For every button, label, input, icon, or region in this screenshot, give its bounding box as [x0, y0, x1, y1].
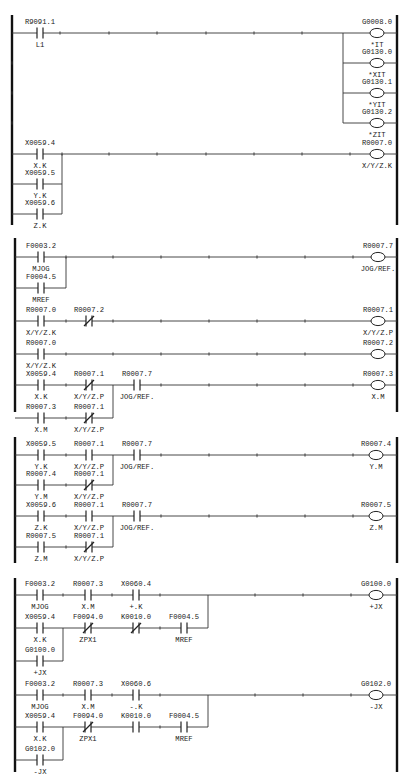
no-contact[interactable]: K0010.0	[121, 712, 151, 733]
contact-address: F0003.2	[25, 680, 55, 688]
contact-label: X/Y/Z.P	[74, 524, 104, 532]
contact-label: X.M	[35, 426, 48, 434]
no-contact[interactable]: R0007.0X/Y/Z.K	[26, 339, 57, 370]
nc-contact[interactable]: R0007.1X/Y/Z.P	[74, 532, 104, 563]
output-coil[interactable]: R0007.4Y.M	[361, 440, 391, 471]
no-contact[interactable]: X0059.4X.K	[25, 613, 55, 644]
nc-contact[interactable]: F0094.0ZPX1	[73, 712, 103, 743]
nc-contact[interactable]: R0007.1X/Y/Z.P	[74, 470, 104, 501]
no-contact[interactable]: G0102.0-JX	[25, 745, 55, 776]
coil-icon	[370, 58, 384, 67]
no-contact[interactable]: F0003.2MJOG	[25, 680, 55, 711]
no-contact[interactable]: R0007.1X/Y/Z.P	[74, 501, 104, 532]
no-contact[interactable]: F0004.5MREF	[169, 712, 199, 743]
no-contact[interactable]: R0007.3X.M	[73, 580, 103, 611]
contact-gap	[86, 454, 92, 457]
no-contact[interactable]: X0060.4+.K	[121, 580, 151, 611]
no-contact[interactable]: R0007.3X.M	[73, 680, 103, 711]
contact-address: X0059.5	[25, 169, 55, 177]
contact-label: -JX	[34, 768, 48, 776]
contact-gap	[181, 627, 187, 630]
contact-label: MREF	[175, 735, 192, 743]
nc-contact[interactable]: R0007.1X/Y/Z.P	[74, 370, 104, 401]
contact-address: X0059.5	[26, 440, 56, 448]
no-contact[interactable]: R0007.3X.M	[26, 403, 56, 434]
no-contact[interactable]: R0007.7JOG/REF.	[120, 440, 155, 471]
output-coil[interactable]: R0007.2	[363, 339, 393, 359]
output-coil[interactable]: R0007.5Z.M	[361, 501, 391, 532]
no-contact[interactable]: R0007.0X/Y/Z.K	[26, 306, 57, 337]
contact-label: X/Y/Z.P	[74, 555, 104, 563]
output-coil[interactable]: G0102.0-JX	[361, 680, 391, 711]
contact-address: R0007.5	[26, 532, 56, 540]
no-contact[interactable]: X0059.6Z.K	[26, 501, 56, 532]
contact-gap	[37, 627, 43, 630]
output-coil[interactable]: R0007.1X/Y/Z.P	[363, 306, 393, 337]
coil-label: X/Y/Z.K	[362, 162, 393, 170]
contact-label: X.K	[35, 393, 49, 401]
coil-label: Y.M	[370, 463, 383, 471]
nc-contact[interactable]: K0010.0	[121, 613, 151, 634]
no-contact[interactable]: X0059.6Z.K	[25, 199, 55, 230]
coil-address: R0007.7	[363, 242, 393, 250]
output-coil[interactable]: R0007.3X.M	[363, 370, 393, 401]
no-contact[interactable]: X0059.5Y.K	[26, 440, 56, 471]
no-contact[interactable]: F0004.5MREF	[26, 273, 56, 304]
no-contact[interactable]: X0059.4X.K	[25, 712, 55, 743]
contact-gap	[37, 153, 43, 156]
ladder-section-1: R9091.1L1X0059.4X.KX0059.5Y.KX0059.6Z.KG…	[12, 15, 397, 230]
contact-address: G0100.0	[25, 646, 55, 654]
coil-address: R0007.2	[363, 339, 393, 347]
output-coil[interactable]: R0007.0X/Y/Z.K	[362, 139, 393, 170]
contact-gap	[37, 213, 43, 216]
contact-gap	[37, 594, 43, 597]
no-contact[interactable]: R0007.5Z.M	[26, 532, 56, 563]
no-contact[interactable]: X0059.5Y.K	[25, 169, 55, 200]
contact-gap	[134, 384, 140, 387]
contact-gap	[134, 454, 140, 457]
contact-label: ZPX1	[79, 636, 96, 644]
contact-gap	[38, 320, 44, 323]
contact-label: X/Y/Z.P	[74, 393, 104, 401]
contact-gap	[85, 594, 91, 597]
output-coil[interactable]: G0130.1*YIT	[362, 78, 392, 109]
output-coil[interactable]: G0130.2*ZIT	[362, 108, 392, 139]
output-coil[interactable]: G0130.0*XIT	[362, 48, 392, 79]
output-coil[interactable]: G0008.0*IT	[362, 18, 392, 49]
contact-gap	[86, 515, 92, 518]
no-contact[interactable]: X0059.4X.K	[25, 139, 55, 170]
nc-contact[interactable]: R0007.1X/Y/Z.P	[74, 403, 104, 434]
no-contact[interactable]: R0007.4Y.M	[26, 470, 56, 501]
nc-contact[interactable]: F0094.0ZPX1	[73, 613, 103, 644]
coil-icon	[370, 149, 384, 158]
contact-label: Z.M	[35, 555, 48, 563]
output-coil[interactable]: G0100.0+JX	[361, 580, 391, 611]
no-contact[interactable]: X0059.4X.K	[26, 370, 56, 401]
contact-address: F0003.2	[26, 242, 56, 250]
coil-address: R0007.0	[362, 139, 392, 147]
coil-address: G0102.0	[361, 680, 391, 688]
coil-label: *ZIT	[368, 131, 386, 139]
no-contact[interactable]: G0100.0+JX	[25, 646, 55, 677]
contact-address: R0007.1	[74, 470, 104, 478]
contact-label: L1	[36, 41, 45, 49]
contact-label: X/Y/Z.K	[26, 329, 57, 337]
contact-label: MREF	[32, 296, 49, 304]
output-coil[interactable]: R0007.7JOG/REF.	[361, 242, 396, 273]
coil-icon	[371, 380, 385, 389]
no-contact[interactable]: F0003.2MJOG	[25, 580, 55, 611]
contact-address: R0007.0	[26, 306, 56, 314]
no-contact[interactable]: F0004.5MREF	[169, 613, 199, 644]
nc-contact[interactable]: R0007.2	[74, 306, 104, 327]
coil-address: G0130.2	[362, 108, 392, 116]
coil-icon	[369, 511, 383, 520]
contact-gap	[37, 759, 43, 762]
no-contact[interactable]: F0003.2MJOG	[26, 242, 56, 273]
no-contact[interactable]: R0007.7JOG/REF.	[120, 370, 155, 401]
contact-gap	[37, 694, 43, 697]
contact-label: X.K	[34, 636, 48, 644]
no-contact[interactable]: R9091.1L1	[25, 18, 55, 49]
no-contact[interactable]: R0007.1X/Y/Z.P	[74, 440, 104, 471]
no-contact[interactable]: X0060.6-.K	[121, 680, 151, 711]
no-contact[interactable]: R0007.7JOG/REF.	[120, 501, 155, 532]
